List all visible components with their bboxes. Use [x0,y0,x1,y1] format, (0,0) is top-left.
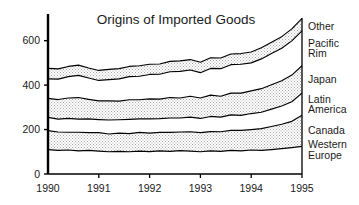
legend-label-japan: Japan [308,73,337,85]
x-tick-label: 1995 [290,182,314,194]
x-tick-label: 1990 [36,182,60,194]
legend-label-canada: Canada [308,124,345,136]
stacked-area-chart: 0200400600 199019911992199319941995 Othe… [0,0,359,205]
legend-label-pacific-rim: Rim [308,47,327,59]
x-tick-label: 1994 [240,182,264,194]
legend-label-latin-america: America [308,103,347,115]
x-tick-label: 1991 [87,182,111,194]
y-axis-ticks: 0200400600 [22,34,48,179]
chart-legend: OtherPacificRimJapanLatinAmericaCanadaWe… [308,20,347,160]
chart-title: Origins of Imported Goods [97,12,256,27]
legend-label-other: Other [308,20,335,32]
y-tick-label: 600 [22,34,40,46]
legend-label-western-europe: Europe [308,149,342,161]
x-tick-label: 1993 [189,182,213,194]
chart-container: 0200400600 199019911992199319941995 Othe… [0,0,359,205]
x-tick-label: 1992 [138,182,162,194]
y-tick-label: 0 [34,168,40,180]
x-axis-ticks: 199019911992199319941995 [36,174,314,194]
y-tick-label: 200 [22,123,40,135]
y-tick-label: 400 [22,79,40,91]
